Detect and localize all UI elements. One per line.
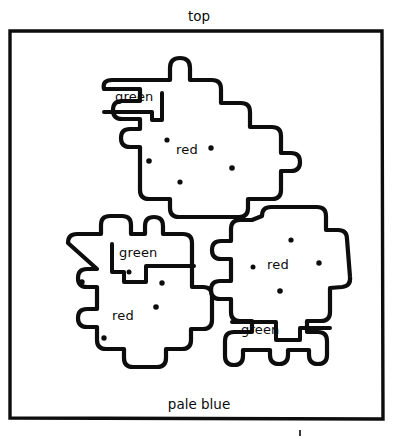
- dot: [277, 288, 283, 294]
- shape-top-red-label: red: [176, 142, 198, 157]
- dot: [229, 165, 235, 171]
- shape-bottom-left[interactable]: green red: [68, 216, 212, 367]
- shape-bottom-right-red-label: red: [267, 257, 289, 272]
- diagram-canvas: green red green red: [0, 0, 399, 443]
- shape-top-outline: [104, 58, 300, 217]
- dot: [316, 260, 321, 265]
- dot: [288, 237, 293, 242]
- dot: [153, 304, 159, 310]
- shape-top-green-label: green: [115, 89, 154, 104]
- dot: [146, 158, 152, 164]
- shape-bottom-right-green-label: green: [241, 322, 280, 337]
- shape-bottom-left-outline: [68, 216, 212, 367]
- shape-bottom-left-green-label: green: [119, 245, 158, 260]
- dot: [208, 145, 213, 150]
- pale-blue-label: pale blue: [168, 396, 230, 412]
- shape-top[interactable]: green red: [104, 58, 300, 217]
- dot: [159, 280, 164, 285]
- top-label: top: [188, 8, 210, 24]
- dot: [79, 279, 84, 284]
- shape-bottom-right[interactable]: green red: [211, 207, 350, 365]
- dot: [164, 137, 169, 142]
- dot: [177, 179, 182, 184]
- region-diagram-svg: green red green red: [0, 0, 399, 443]
- dot: [251, 265, 256, 270]
- dot: [101, 335, 106, 340]
- dot: [127, 270, 132, 275]
- bottom-tick-mark: [299, 430, 301, 436]
- shape-bottom-left-red-label: red: [112, 308, 134, 323]
